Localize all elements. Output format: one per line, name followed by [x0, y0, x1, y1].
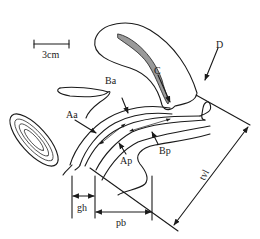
rectum — [102, 126, 210, 195]
scale-bar — [34, 40, 69, 48]
label-C: C — [154, 66, 161, 76]
pop-q-diagram: 3cm Aa Ba C D Ap Bp gh pb tvl — [0, 0, 260, 239]
label-Bp: Bp — [159, 146, 171, 156]
uterus — [95, 23, 197, 109]
label-Ap: Ap — [120, 156, 132, 166]
label-D: D — [216, 40, 223, 50]
label-pb: pb — [116, 218, 126, 228]
scale-label: 3cm — [42, 50, 59, 60]
label-Ba: Ba — [105, 76, 116, 86]
label-Aa: Aa — [66, 110, 78, 120]
arrow-D — [205, 48, 218, 80]
anatomy-drawing — [0, 0, 260, 239]
arrow-Aa — [75, 120, 96, 133]
label-gh: gh — [77, 203, 87, 213]
vaginal-walls — [63, 102, 211, 175]
pb-measurement — [96, 176, 152, 220]
pubic-bone — [2, 107, 65, 173]
